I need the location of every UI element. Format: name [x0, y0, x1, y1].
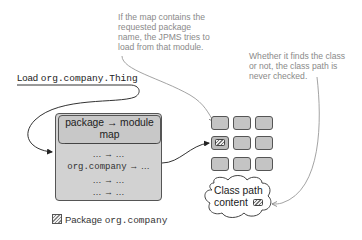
caption-line: never checked. [249, 71, 345, 81]
class-path-caption: Whether it finds the class or not, the c… [249, 51, 345, 81]
cloud-line-2: content [214, 197, 263, 209]
map-to-module-arrow [162, 143, 209, 163]
legend-package-name: org.company [105, 215, 168, 226]
caption-line: or not, the class path is [249, 61, 345, 71]
map-header-title: package → module [59, 117, 160, 129]
module-with-package [211, 136, 229, 150]
map-row: org.company → … [56, 160, 161, 173]
map-key: … [92, 175, 101, 185]
arrow-icon: → [104, 149, 113, 159]
map-row: … → … [56, 174, 161, 186]
legend-label: Package [65, 214, 102, 225]
module [211, 116, 229, 130]
caption-line: load from that module. [118, 42, 210, 52]
map-value: … [141, 161, 150, 171]
map-value: … [116, 187, 125, 197]
package-icon [52, 214, 62, 224]
legend: Package org.company [52, 214, 167, 226]
map-row: … → … [56, 148, 161, 160]
caption-line: name, the JPMS tries to [118, 32, 210, 42]
map-row: … → … [56, 186, 161, 198]
module [233, 116, 251, 130]
arrow-icon: → [104, 175, 113, 185]
arrow-icon: → [129, 161, 138, 171]
map-key: … [92, 187, 101, 197]
map-rows: … → … org.company → … … → … … → … [56, 148, 161, 198]
cloud-line: Class path [214, 185, 263, 197]
arrow-icon: → [104, 187, 113, 197]
map-key: … [92, 149, 101, 159]
map-key: org.company [67, 162, 126, 172]
cloud-line: content [214, 197, 248, 208]
package-icon [253, 199, 263, 206]
module [255, 136, 273, 150]
jpms-lookup-caption: If the map contains the requested packag… [118, 12, 210, 52]
header-divider [65, 143, 156, 144]
jpms-class-loading-diagram: If the map contains the requested packag… [0, 0, 362, 240]
load-request: Load org.company.Thing [17, 72, 138, 84]
class-path-content: Class path content [214, 185, 263, 208]
package-icon [215, 139, 225, 146]
map-value: … [116, 175, 125, 185]
class-name: org.company.Thing [41, 73, 138, 84]
map-value: … [116, 149, 125, 159]
module [211, 157, 229, 171]
caption-line: Whether it finds the class [249, 51, 345, 61]
module [255, 157, 273, 171]
map-header-subtitle: map [59, 129, 160, 141]
caption-line: requested package [118, 22, 210, 32]
load-label: Load [17, 72, 38, 83]
package-module-map: package → module map … → … org.company →… [55, 113, 162, 201]
caption-line: If the map contains the [118, 12, 210, 22]
module [233, 136, 251, 150]
module [255, 116, 273, 130]
caption2-pointer [272, 77, 319, 204]
map-header: package → module map [58, 115, 161, 144]
module [233, 157, 251, 171]
